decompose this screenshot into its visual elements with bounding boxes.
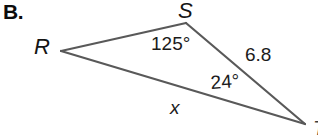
triangle-figure	[0, 0, 318, 139]
vertex-label-r: R	[34, 36, 50, 58]
side-label-x: x	[170, 98, 180, 117]
figure-canvas: B. R S T 125° 24° 6.8 x	[0, 0, 318, 139]
vertex-label-t: T	[313, 118, 318, 138]
angle-label-s: 125°	[151, 34, 190, 53]
edge-st	[186, 23, 305, 124]
problem-letter: B.	[3, 1, 23, 22]
angle-label-t: 24°	[210, 71, 240, 92]
vertex-label-s: S	[178, 0, 193, 22]
side-label-st: 6.8	[245, 45, 271, 64]
